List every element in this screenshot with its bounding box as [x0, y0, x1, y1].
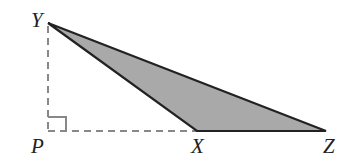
triangle-diagram: Y P X Z	[0, 0, 359, 164]
triangle-xyz	[48, 23, 326, 131]
label-y: Y	[31, 8, 45, 32]
label-p: P	[30, 134, 44, 158]
right-angle-marker	[48, 117, 66, 131]
label-z: Z	[323, 134, 335, 158]
label-x: X	[190, 134, 205, 158]
